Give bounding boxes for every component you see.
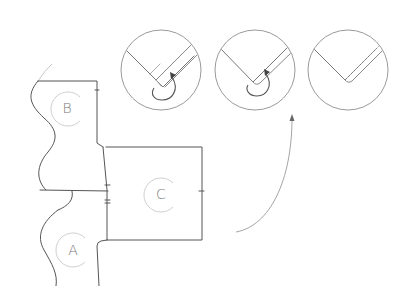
label-c-text: C xyxy=(156,186,166,202)
arrow-head-icon xyxy=(290,114,295,121)
panel-b-edge-hint xyxy=(38,64,52,81)
panel-c-left-edge xyxy=(103,147,107,240)
detail-circle-1 xyxy=(121,30,201,110)
panel-a-wavy-edge xyxy=(40,210,58,286)
label-a: A xyxy=(56,233,85,267)
panel-b xyxy=(31,64,103,190)
label-c: C xyxy=(144,178,173,212)
assembly-diagram: B C A xyxy=(0,0,406,286)
panel-c-outline xyxy=(106,147,202,240)
detail-step-3 xyxy=(308,30,388,110)
label-b: B xyxy=(51,92,80,126)
detail-step-2 xyxy=(215,30,295,110)
detail-circle-2 xyxy=(215,30,295,110)
detail-step-1 xyxy=(121,30,201,110)
curved-arrow xyxy=(236,114,295,232)
panel-a-outline xyxy=(97,240,107,286)
seam xyxy=(40,185,110,210)
detail-circle-3 xyxy=(308,30,388,110)
horizontal-seam-line xyxy=(40,190,108,191)
curved-arrow-line xyxy=(236,118,292,232)
panel-c xyxy=(106,147,204,240)
seam-bump xyxy=(58,191,72,210)
label-b-text: B xyxy=(62,100,71,116)
label-a-text: A xyxy=(68,242,78,258)
panel-b-wavy-edge xyxy=(31,81,55,190)
